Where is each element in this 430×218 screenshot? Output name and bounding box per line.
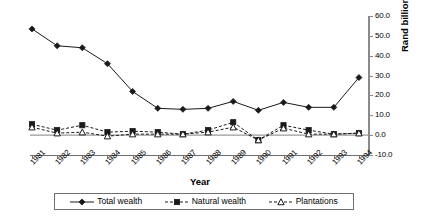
legend-marker [269,193,293,211]
value-axis-tick-label: 60.0 [375,12,390,20]
value-axis-tick-label: 20.0 [375,91,390,99]
chart-legend: Total wealthNatural wealthPlantations [54,193,354,210]
value-axis-tick [368,16,373,17]
value-axis-tick-label: 30.0 [375,72,390,80]
y-axis-title: Rand billion [399,0,410,52]
data-point-open-triangle [79,129,85,135]
value-axis-tick-label: 10.0 [375,111,390,119]
legend-item-label: Natural wealth [192,197,246,206]
value-axis-tick [368,95,373,96]
value-axis-tick-label: 50.0 [375,32,390,40]
y-axis-title-text: Rand billion [399,0,410,52]
data-point-filled-square [80,123,85,128]
value-axis-tick [368,135,373,136]
data-point-filled-diamond [230,98,236,104]
legend-item[interactable]: Total wealth [70,193,142,211]
data-point-filled-diamond [306,104,312,110]
legend-item[interactable]: Plantations [269,193,338,211]
data-point-filled-diamond [281,99,287,105]
filled-square-icon [165,197,189,207]
legend-item-label: Total wealth [97,197,142,206]
series-natural-wealth [29,120,361,143]
value-axis-tick [368,56,373,57]
data-point-filled-square [174,199,179,204]
filled-diamond-icon [70,197,94,207]
value-axis-tick-label: -10.0 [375,151,392,159]
legend-item[interactable]: Natural wealth [165,193,246,211]
series-line [32,29,359,110]
legend-marker [165,193,189,211]
value-axis-tick [368,36,373,37]
open-triangle-icon [269,197,293,207]
value-axis-tick [368,115,373,116]
series-canvas [30,16,368,155]
value-axis-tick-label: 0.0 [375,131,386,139]
data-point-filled-diamond [255,107,261,113]
data-point-filled-diamond [79,199,85,205]
value-axis-line [368,16,370,155]
data-point-filled-diamond [29,26,35,32]
data-point-filled-diamond [155,105,161,111]
data-point-filled-diamond [79,45,85,51]
data-point-filled-diamond [205,105,211,111]
legend-item-label: Plantations [296,197,338,206]
series-plantations [29,124,362,143]
data-point-filled-diamond [54,43,60,49]
data-point-open-triangle [277,198,283,204]
series-total-wealth [29,26,362,113]
chart-figure: 60.050.040.030.020.010.00.0-10.0 Rand bi… [0,0,430,218]
data-point-filled-diamond [180,106,186,112]
value-axis-tick-label: 40.0 [375,52,390,60]
plot-area: 60.050.040.030.020.010.00.0-10.0 Rand bi… [0,0,430,190]
value-axis-tick [368,76,373,77]
legend-marker [70,193,94,211]
x-axis-title: Year [0,176,400,187]
plot-canvas [30,16,368,155]
